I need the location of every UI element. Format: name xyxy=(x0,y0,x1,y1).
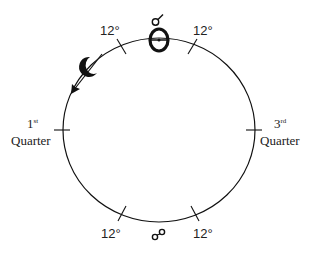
label-third-quarter-word: Quarter xyxy=(260,133,300,148)
label-bottom-right-degree: 12° xyxy=(193,226,213,241)
opposition-icon xyxy=(152,229,164,239)
label-bottom-left-degree: 12° xyxy=(101,226,121,241)
lunar-orbit-diagram: 12° 12° 12° 12° 1st Quarter 3rd Quarter xyxy=(0,0,321,254)
label-top-left-degree: 12° xyxy=(100,23,120,38)
label-third-quarter-number: 3rd xyxy=(274,116,287,131)
label-top-right-degree: 12° xyxy=(193,23,213,38)
sun-icon xyxy=(150,29,168,51)
first-quarter-suffix: st xyxy=(34,117,39,125)
tick-bottom-right xyxy=(191,206,199,221)
tick-top-right xyxy=(188,39,197,54)
label-first-quarter-word: Quarter xyxy=(11,133,51,148)
orbit-circle xyxy=(63,38,255,222)
third-quarter-suffix: rd xyxy=(281,117,287,125)
label-first-quarter-number: 1st xyxy=(27,116,38,131)
conjunction-icon xyxy=(152,15,163,26)
